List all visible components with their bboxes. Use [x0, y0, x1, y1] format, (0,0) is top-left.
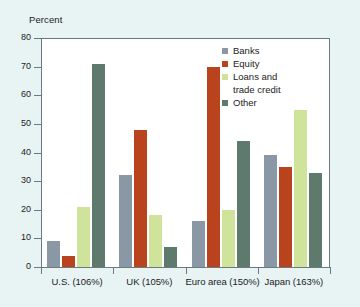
legend-item-continuation: trade credit: [222, 83, 281, 96]
y-tick-mark: [34, 153, 41, 154]
y-tick-label: 40: [21, 147, 31, 157]
bar: [149, 215, 162, 267]
chart-legend: BanksEquityLoans andtrade creditOther: [222, 44, 281, 109]
bar: [47, 241, 60, 267]
y-axis-tick: 30: [0, 181, 41, 182]
bar-chart: Percent 01020304050607080 U.S. (106%)UK …: [0, 0, 360, 307]
legend-item: Other: [222, 96, 281, 109]
y-tick-mark: [34, 210, 41, 211]
bar: [207, 67, 220, 267]
legend-swatch-icon: [222, 48, 228, 54]
legend-label-line2: trade credit: [233, 83, 281, 96]
legend-swatch-spacer: [222, 87, 228, 93]
legend-item: Banks: [222, 44, 281, 57]
x-axis-label: Japan (163%): [258, 276, 330, 287]
y-axis-tick: 50: [0, 124, 41, 125]
legend-label: Banks: [233, 44, 259, 57]
y-tick-mark: [34, 124, 41, 125]
bar: [309, 173, 322, 267]
y-tick-mark: [34, 267, 41, 268]
x-axis-label: Euro area (150%): [186, 276, 258, 287]
bar: [119, 175, 132, 267]
bars-layer: [41, 38, 330, 267]
legend-swatch-icon: [222, 61, 228, 67]
bar: [192, 221, 205, 267]
y-axis-tick: 80: [0, 38, 41, 39]
bar: [279, 167, 292, 267]
y-tick-label: 20: [21, 204, 31, 214]
y-axis-title: Percent: [29, 14, 62, 25]
y-tick-label: 50: [21, 118, 31, 128]
y-tick-label: 10: [21, 232, 31, 242]
bar: [77, 207, 90, 267]
bar: [92, 64, 105, 267]
y-tick-label: 30: [21, 175, 31, 185]
y-tick-label: 80: [21, 32, 31, 42]
x-axis-line: [34, 267, 331, 268]
legend-swatch-icon: [222, 100, 228, 106]
bar: [222, 210, 235, 267]
y-tick-mark: [34, 95, 41, 96]
bar: [164, 247, 177, 267]
legend-label: Other: [233, 96, 257, 109]
y-axis-tick: 20: [0, 210, 41, 211]
bar: [294, 110, 307, 267]
x-axis-label: UK (105%): [113, 276, 185, 287]
y-tick-label: 60: [21, 89, 31, 99]
y-axis-tick: 70: [0, 67, 41, 68]
legend-label: Loans and: [233, 70, 277, 83]
legend-swatch-icon: [222, 74, 228, 80]
x-tick-mark: [186, 268, 187, 274]
legend-label: Equity: [233, 57, 259, 70]
x-axis-label: U.S. (106%): [41, 276, 113, 287]
y-axis-tick: 40: [0, 153, 41, 154]
bar: [134, 130, 147, 267]
y-axis-tick: 0: [0, 267, 41, 268]
y-tick-mark: [34, 38, 41, 39]
y-tick-mark: [34, 181, 41, 182]
y-axis-tick: 10: [0, 238, 41, 239]
bar: [237, 141, 250, 267]
x-tick-mark: [330, 268, 331, 274]
x-tick-mark: [258, 268, 259, 274]
y-tick-mark: [34, 67, 41, 68]
legend-item: Loans and: [222, 70, 281, 83]
legend-item: Equity: [222, 57, 281, 70]
y-axis-tick: 60: [0, 95, 41, 96]
x-tick-mark: [41, 268, 42, 274]
bar: [264, 155, 277, 267]
y-tick-label: 70: [21, 61, 31, 71]
y-tick-label: 0: [26, 261, 31, 271]
bar: [62, 256, 75, 267]
y-tick-mark: [34, 238, 41, 239]
x-tick-mark: [113, 268, 114, 274]
